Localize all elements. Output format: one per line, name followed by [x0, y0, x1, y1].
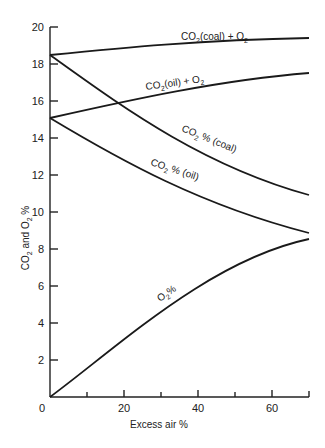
y-tick-10: 10	[32, 206, 44, 218]
label-co2-oil: CO2 % (oil)	[149, 156, 201, 184]
y-tick-8: 8	[38, 243, 44, 255]
y-tick-2: 2	[38, 354, 44, 366]
y-tick-12: 12	[32, 169, 44, 181]
x-tick-labels: 0 20 40 60	[39, 402, 278, 414]
label-co2-coal: CO2 % (coal)	[180, 123, 239, 157]
curve-o2	[50, 239, 309, 397]
x-axis-title: Excess air %	[130, 419, 188, 430]
x-tick-60: 60	[266, 402, 278, 414]
curve-co2-coal-plus-o2	[50, 38, 309, 55]
y-tick-6: 6	[38, 280, 44, 292]
y-tick-14: 14	[32, 132, 44, 144]
y-tick-20: 20	[32, 21, 44, 33]
x-tick-40: 40	[192, 402, 204, 414]
y-tick-16: 16	[32, 95, 44, 107]
chart: 20 18 16 14 12 10 8 6 4 2 0 20 40 60 Exc…	[0, 0, 325, 448]
x-tick-20: 20	[118, 402, 130, 414]
y-tick-18: 18	[32, 58, 44, 70]
x-tick-0: 0	[39, 402, 45, 414]
y-tick-labels: 20 18 16 14 12 10 8 6 4 2	[32, 21, 44, 366]
y-tick-4: 4	[38, 317, 44, 329]
